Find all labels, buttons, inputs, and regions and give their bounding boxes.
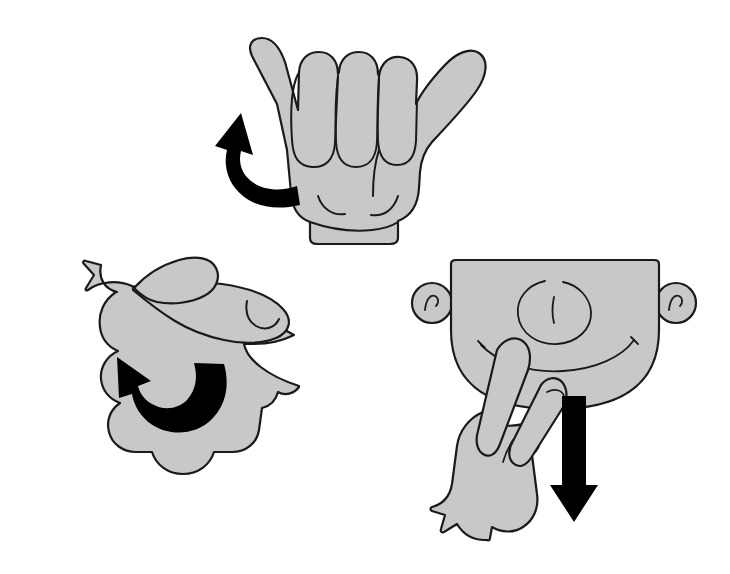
gesture-illustration-svg <box>0 0 730 574</box>
left-ear <box>412 283 452 323</box>
illustration-canvas <box>0 0 730 574</box>
right-ear <box>656 283 696 323</box>
